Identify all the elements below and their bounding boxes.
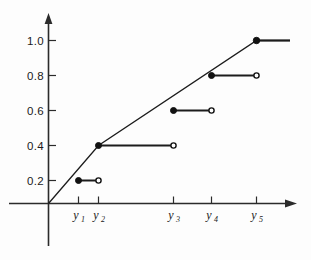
interpolating-curve-group — [49, 41, 291, 204]
empirical-cdf-plot: 1.0 0.8 0.6 0.4 0.2 y 1 y 2 y 3 — [0, 0, 311, 260]
open-marker-y3-0.4 — [171, 143, 176, 148]
svg-text:y: y — [205, 208, 212, 222]
y-tick-label-1.0: 1.0 — [27, 35, 44, 47]
filled-marker-y5-1.0 — [253, 37, 259, 43]
x-tick-subscript-4: 4 — [214, 215, 218, 224]
figure-canvas: 1.0 0.8 0.6 0.4 0.2 y 1 y 2 y 3 — [0, 0, 311, 260]
x-tick-label-y1: y 1 — [72, 208, 85, 224]
x-tick-subscript-2: 2 — [101, 215, 105, 224]
filled-marker-y2-0.4 — [96, 143, 102, 149]
y-tick-label-0.8: 0.8 — [27, 70, 44, 82]
x-tick-subscript-3: 3 — [175, 215, 180, 224]
filled-markers-group — [76, 37, 260, 183]
x-tick-label-y2: y 2 — [92, 208, 105, 224]
filled-marker-y4-0.8 — [209, 73, 215, 79]
x-tick-label-y5: y 5 — [250, 208, 263, 224]
y-tick-label-0.2: 0.2 — [27, 175, 44, 187]
y-ticks-group: 1.0 0.8 0.6 0.4 0.2 — [27, 35, 56, 187]
filled-marker-y1-0.2 — [76, 178, 82, 184]
open-markers-group — [96, 73, 259, 183]
y-tick-label-0.4: 0.4 — [27, 140, 44, 152]
x-tick-subscript-1: 1 — [81, 215, 85, 224]
x-tick-label-y3: y 3 — [167, 208, 180, 224]
svg-text:y: y — [72, 208, 79, 222]
interpolating-curve — [49, 41, 291, 204]
open-marker-y5-0.8 — [254, 73, 259, 78]
svg-text:y: y — [250, 208, 257, 222]
y-tick-label-0.6: 0.6 — [27, 105, 44, 117]
x-axis-arrow-icon — [285, 199, 297, 207]
x-tick-label-y4: y 4 — [205, 208, 218, 224]
svg-text:y: y — [167, 208, 174, 222]
open-marker-y4-0.6 — [209, 108, 214, 113]
step-function-group — [79, 41, 291, 181]
svg-text:y: y — [92, 208, 99, 222]
x-ticks-group: y 1 y 2 y 3 y 4 y 5 — [72, 197, 263, 225]
y-axis-arrow-icon — [45, 13, 53, 24]
open-marker-y2-0.2 — [96, 178, 101, 183]
filled-marker-y3-0.6 — [171, 108, 177, 114]
x-tick-subscript-5: 5 — [259, 215, 263, 224]
